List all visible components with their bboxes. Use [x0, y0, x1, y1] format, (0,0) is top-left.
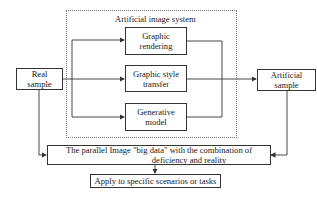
- method-line2: model: [145, 117, 166, 127]
- real-line1: Real: [32, 69, 48, 79]
- big-data-line2: deficiency and reality: [92, 155, 226, 165]
- method-line1: Graphic: [142, 31, 170, 41]
- big-data-line1: The parallel Image "big data" with the c…: [66, 145, 252, 155]
- artificial-line2: sample: [274, 80, 298, 90]
- apply-box: Apply to specific scenarios or tasks: [90, 174, 221, 188]
- method-line1: Graphic style: [133, 69, 179, 79]
- real-sample-box: Real sample: [16, 68, 63, 90]
- graphic-rendering-box: Graphic rendering: [125, 27, 187, 55]
- artificial-sample-box: Artificial sample: [257, 69, 316, 91]
- system-title: Artificial image system: [115, 14, 196, 24]
- real-line2: sample: [27, 79, 51, 89]
- method-line2: transfer: [143, 79, 169, 89]
- generative-model-box: Generative model: [125, 103, 187, 131]
- graphic-style-transfer-box: Graphic style transfer: [125, 65, 187, 92]
- big-data-box: The parallel Image "big data" with the c…: [47, 145, 271, 165]
- apply-label: Apply to specific scenarios or tasks: [95, 176, 217, 186]
- method-line1: Generative: [137, 107, 175, 117]
- method-line2: rendering: [140, 41, 173, 51]
- artificial-line1: Artificial: [271, 70, 303, 80]
